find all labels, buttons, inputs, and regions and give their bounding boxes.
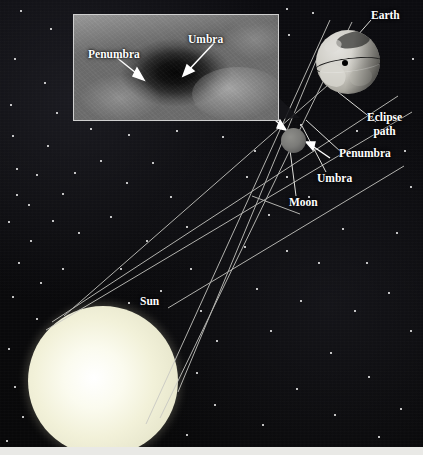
page-bottom-edge bbox=[0, 447, 423, 455]
label-moon: Moon bbox=[289, 196, 318, 209]
eclipse-umbra-dot bbox=[342, 60, 348, 66]
inset-photo-grain bbox=[74, 15, 278, 120]
label-umbra: Umbra bbox=[317, 172, 352, 185]
inset-satellite-photo: Penumbra Umbra bbox=[73, 14, 279, 121]
inset-label-umbra: Umbra bbox=[188, 33, 223, 46]
label-earth: Earth bbox=[371, 9, 400, 22]
label-eclipse-path-line1: Eclipse bbox=[367, 110, 402, 124]
eclipse-diagram-figure: Penumbra Umbra Earth Eclipse path Penumb… bbox=[0, 0, 423, 455]
inset-label-penumbra: Penumbra bbox=[88, 48, 140, 61]
label-penumbra: Penumbra bbox=[339, 147, 391, 160]
moon-sphere bbox=[281, 128, 306, 153]
label-eclipse-path: Eclipse path bbox=[367, 110, 402, 138]
label-sun: Sun bbox=[140, 295, 159, 308]
earth-globe bbox=[316, 30, 380, 94]
sun-sphere bbox=[28, 306, 178, 455]
label-eclipse-path-line2: path bbox=[367, 124, 402, 138]
